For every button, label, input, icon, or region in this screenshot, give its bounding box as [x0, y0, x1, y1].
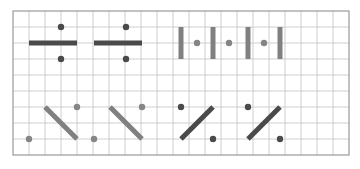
- pattern-dot: [26, 136, 32, 142]
- pattern-dot: [123, 56, 129, 62]
- pattern-dot: [178, 104, 184, 110]
- pattern-dot: [123, 24, 129, 30]
- figure-canvas: [0, 0, 360, 169]
- pattern-dot: [58, 56, 64, 62]
- pattern-dot: [277, 136, 283, 142]
- pattern-dot: [194, 40, 200, 46]
- pattern-dot: [139, 104, 145, 110]
- pattern-dot: [58, 24, 64, 30]
- pattern-dot: [91, 136, 97, 142]
- pattern-dot: [226, 40, 232, 46]
- pattern-dot: [245, 104, 251, 110]
- grid-pattern-figure: [0, 0, 360, 169]
- pattern-dot: [210, 136, 216, 142]
- pattern-dot: [74, 104, 80, 110]
- pattern-dot: [261, 40, 267, 46]
